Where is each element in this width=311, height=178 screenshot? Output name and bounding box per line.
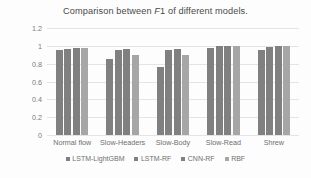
chart-legend: LSTM-LightGBMLSTM-RFCNN-RFRBF [0,155,311,163]
legend-item[interactable]: CNN-RF [181,155,214,163]
x-axis-tick-label: Slow-Read [198,137,248,149]
bar [123,49,130,135]
bar [275,46,282,135]
bar-chart: Comparison between F1 of different model… [0,0,311,178]
legend-label: RBF [231,155,245,163]
bar [56,50,63,135]
bar [216,46,223,135]
bar-group [97,28,147,135]
legend-item[interactable]: LSTM-RF [134,155,171,163]
legend-swatch-icon [181,157,185,161]
bar [165,50,172,135]
y-axis-tick-label: 0.4 [8,95,42,104]
legend-item[interactable]: LSTM-LightGBM [66,155,125,163]
bar [132,55,139,135]
bar [283,46,290,135]
bar [174,49,181,135]
legend-item[interactable]: RBF [225,155,246,163]
chart-title: Comparison between F1 of different model… [0,6,311,16]
bar [115,50,122,135]
y-axis-tick-label: 1.2 [8,24,42,33]
bar [182,55,189,135]
bar-group [249,28,299,135]
y-axis-tick-label: 1 [8,41,42,50]
y-axis-tick-label: 0 [8,131,42,140]
chart-title-before: Comparison between [63,6,154,16]
x-axis-tick-label: Slow-Body [148,137,198,149]
bar-group [148,28,198,135]
bar [207,48,214,135]
bar [157,67,164,135]
gridline [47,135,299,136]
y-axis-tick-label: 0.6 [8,77,42,86]
bar-groups [47,28,299,135]
bar [224,46,231,135]
bar [64,49,71,135]
legend-label: LSTM-RF [141,155,171,163]
bar [81,48,88,135]
legend-swatch-icon [66,157,70,161]
y-axis-tick-label: 0.2 [8,113,42,122]
plot-area [47,28,299,135]
bar-group [198,28,248,135]
bar [106,59,113,135]
legend-swatch-icon [225,157,229,161]
x-axis-tick-label: Normal flow [47,137,97,149]
bar [73,48,80,135]
bar-group [47,28,97,135]
bar [266,47,273,135]
x-axis: Normal flowSlow-HeadersSlow-BodySlow-Rea… [47,137,299,149]
x-axis-tick-label: Shrew [249,137,299,149]
legend-label: LSTM-LightGBM [72,155,124,163]
bar [233,46,240,135]
legend-label: CNN-RF [188,155,215,163]
y-axis-tick-label: 0.8 [8,59,42,68]
chart-title-after: 1 of different models. [160,6,248,16]
y-axis: 1.210.80.60.40.20 [6,28,42,135]
x-axis-tick-label: Slow-Headers [97,137,147,149]
bar [258,50,265,135]
legend-swatch-icon [134,157,138,161]
